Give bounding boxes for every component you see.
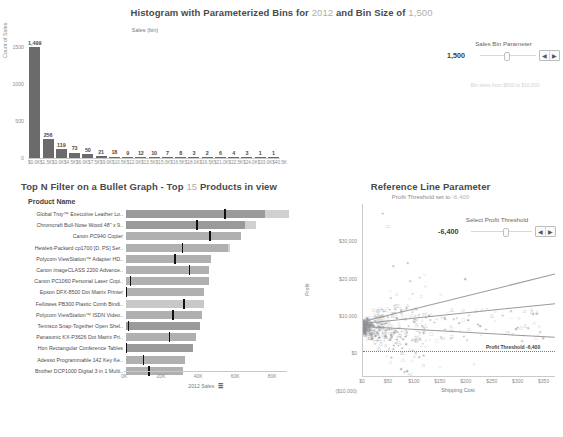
histogram-bar-cell[interactable]: 4 <box>227 40 240 158</box>
histogram-bar-value: 119 <box>57 143 66 148</box>
histogram-bar-cell[interactable]: 256 <box>42 40 55 158</box>
bullet-bar[interactable] <box>126 311 202 319</box>
table-row[interactable]: Chromcraft Bull-Nose Wood 48" x 9.. <box>0 219 289 231</box>
table-row[interactable]: Polycom ViewStation™ Adapter HD.. <box>0 253 289 265</box>
bullet-bar[interactable] <box>126 255 211 263</box>
reference-line <box>363 351 555 352</box>
bullet-reference-marker <box>169 332 170 342</box>
table-row[interactable]: Canon PC1060 Personal Laser Copi.. <box>0 275 289 287</box>
chevron-left-icon[interactable]: ◀ <box>536 227 546 236</box>
table-row[interactable]: Canon imageCLASS 2200 Advance.. <box>0 264 289 276</box>
histogram-bar-value: 9 <box>126 151 129 156</box>
bullet-bar[interactable] <box>126 210 265 218</box>
table-row[interactable]: Hon Rectangular Conference Tables <box>0 342 289 354</box>
scatter-point: ○ <box>389 289 392 294</box>
histogram-bar[interactable] <box>29 47 40 158</box>
profit-threshold-slider[interactable] <box>471 227 532 237</box>
histogram-bar-cell[interactable]: 21 <box>95 40 108 158</box>
histogram-bar-cell[interactable]: 1 <box>267 40 280 158</box>
sales-bin-stepper[interactable]: ◀ ▶ <box>539 50 560 61</box>
scatter-point: ○ <box>397 321 400 326</box>
scatter-panel: Reference Line Parameter Profit Threshol… <box>298 178 563 437</box>
product-name: Chromcraft Bull-Nose Wood 48" x 9.. <box>0 222 126 228</box>
histogram-x-tick: $6.0K <box>76 160 88 165</box>
histogram-bar-cell[interactable]: 8 <box>174 40 187 158</box>
table-row[interactable]: Hewlett-Packard cp1700 [D, PS] Ser.. <box>0 242 289 254</box>
chevron-right-icon[interactable]: ▶ <box>546 227 555 236</box>
table-row[interactable]: Epson DFX-8500 Dot Matrix Printer <box>0 286 289 298</box>
scatter-point: ○ <box>438 365 441 370</box>
histogram-bar[interactable] <box>43 139 54 158</box>
scatter-point: ○ <box>376 339 378 343</box>
histogram-bar-value: 18 <box>111 150 117 155</box>
histogram-bar-cell[interactable]: 2 <box>201 40 214 158</box>
histogram-bar-cell[interactable]: 3 <box>240 40 253 158</box>
sales-bin-slider[interactable] <box>480 51 536 61</box>
scatter-x-tick: $0 <box>359 378 365 384</box>
table-row[interactable]: Global Troy™ Executive Leather Lo.. <box>0 208 289 220</box>
histogram-bar[interactable] <box>56 149 67 158</box>
histogram-bar-cell[interactable]: 7 <box>161 40 174 158</box>
table-row[interactable]: Panasonic KX-P3626 Dot Matrix Pri.. <box>0 331 289 343</box>
scatter-point: × <box>392 263 395 268</box>
scatter-point: × <box>439 336 442 341</box>
scatter-y-tick: $10,000 <box>339 313 357 319</box>
slider-knob[interactable] <box>503 228 509 237</box>
histogram-bar-value: 3 <box>245 151 248 156</box>
scatter-point: + <box>400 330 403 335</box>
bullet-bar[interactable] <box>126 277 209 285</box>
histogram-bar-cell[interactable]: 3 <box>187 40 200 158</box>
scatter-point: △ <box>389 360 392 364</box>
table-row[interactable]: Fellowes PB300 Plastic Comb Bindi.. <box>0 298 289 310</box>
chevron-right-icon[interactable]: ▶ <box>550 51 559 60</box>
histogram-bar-cell[interactable]: 12 <box>134 40 147 158</box>
sales-bin-parameter-control[interactable]: Sales Bin Parameter 1,500 ◀ ▶ <box>447 40 560 61</box>
histogram-bar-cell[interactable]: 6 <box>214 40 227 158</box>
profit-threshold-parameter-control[interactable]: Select Profit Threshold -6,400 ◀ ▶ <box>438 216 556 237</box>
bullet-bar[interactable] <box>126 344 193 352</box>
bullet-bar[interactable] <box>126 333 196 341</box>
bullet-track <box>126 221 289 229</box>
bullet-bar[interactable] <box>126 322 200 330</box>
histogram-bar-cell[interactable]: 73 <box>68 40 81 158</box>
table-row[interactable]: Canon PC940 Copier <box>0 230 289 242</box>
bullet-bar[interactable] <box>126 356 185 364</box>
scatter-point: × <box>429 338 431 342</box>
bullet-bar[interactable] <box>126 232 241 240</box>
slider-knob[interactable] <box>504 52 510 61</box>
histogram-bar-cell[interactable]: 18 <box>108 40 121 158</box>
scatter-point: △ <box>390 331 394 336</box>
bullet-track <box>126 255 289 263</box>
table-row[interactable]: Polycom ViewStation™ ISDN Video.. <box>0 309 289 321</box>
histogram-x-tick: $33.0K <box>258 160 273 165</box>
table-row[interactable]: Tennsco Snap-Together Open Shel.. <box>0 320 289 332</box>
histogram-bar-cell[interactable]: 10 <box>148 40 161 158</box>
bullet-track <box>126 356 289 364</box>
histogram-x-tick: $13.5K <box>141 160 156 165</box>
scatter-point: △ <box>375 310 379 315</box>
scatter-point: × <box>450 324 452 328</box>
product-name: Panasonic KX-P3626 Dot Matrix Pri.. <box>0 334 126 340</box>
bullet-bar[interactable] <box>126 300 204 308</box>
product-name: Adesso Programmable 142 Key Ke.. <box>0 357 126 363</box>
histogram-bar-cell[interactable]: 9 <box>121 40 134 158</box>
chevron-left-icon[interactable]: ◀ <box>540 51 550 60</box>
scatter-point: △ <box>413 354 416 358</box>
histogram-bar-cell[interactable]: 119 <box>55 40 68 158</box>
bullet-x-tick: 0K <box>121 373 127 379</box>
bullet-bar[interactable] <box>126 244 228 252</box>
histogram-bar-cell[interactable]: 1,499 <box>28 40 42 158</box>
profit-threshold-stepper[interactable]: ◀ ▶ <box>535 226 556 237</box>
table-row[interactable]: Adesso Programmable 142 Key Ke.. <box>0 354 289 366</box>
sort-icon[interactable]: ☰ <box>218 382 223 389</box>
bullet-bar[interactable] <box>126 288 204 296</box>
histogram-bar-cell[interactable]: 50 <box>81 40 94 158</box>
bullet-reference-marker <box>126 287 127 297</box>
histogram-bar-cell[interactable]: 1 <box>254 40 267 158</box>
bullet-title-prefix: Top N Filter on a Bullet Graph - Top <box>21 181 184 192</box>
scatter-point: ○ <box>538 324 541 329</box>
bullet-bar[interactable] <box>126 221 245 229</box>
bullet-bar[interactable] <box>126 266 209 274</box>
bullet-track <box>126 300 289 308</box>
histogram-title-prefix: Histogram with Parameterized Bins for <box>130 7 308 18</box>
